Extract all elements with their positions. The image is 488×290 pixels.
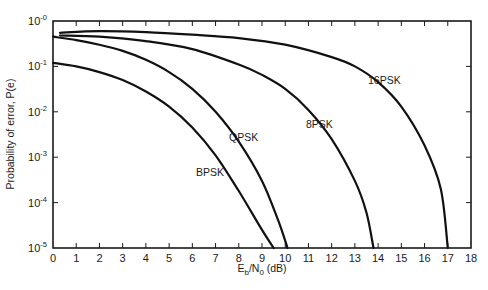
x-tick-label: 4: [143, 252, 149, 264]
y-tick-label: 10-4: [28, 195, 47, 209]
label-16psk: 16PSK: [368, 74, 401, 86]
ber-chart: 0123456789101112131415161718 10-010-110-…: [0, 0, 488, 290]
x-tick-label: 0: [50, 252, 56, 264]
curve-bpsk: [53, 63, 274, 248]
x-tick-label: 14: [372, 252, 384, 264]
x-tick-label: 11: [303, 252, 314, 264]
x-axis-title: Eb/N0 (dB): [237, 262, 286, 277]
plot-border: [53, 21, 471, 248]
label-qpsk: QPSK: [229, 131, 258, 143]
label-8psk: 8PSK: [306, 118, 333, 130]
plot-frame: [53, 21, 471, 248]
y-tick-label: 10-2: [28, 104, 47, 118]
x-tick-label: 18: [465, 252, 477, 264]
x-tick-label: 1: [73, 252, 79, 264]
y-tick-label: 10-3: [28, 149, 47, 163]
x-tick-label: 16: [418, 252, 430, 264]
label-bpsk: BPSK: [196, 166, 224, 178]
x-tick-label: 15: [395, 252, 407, 264]
y-tick-label: 10-1: [28, 58, 47, 72]
x-tick-label: 13: [349, 252, 361, 264]
x-tick-label: 2: [96, 252, 102, 264]
x-tick-label: 3: [120, 252, 126, 264]
x-tick-label: 17: [442, 252, 454, 264]
x-tick-label: 6: [189, 252, 195, 264]
x-tick-label: 12: [326, 252, 338, 264]
y-tick-label: 10-5: [28, 240, 47, 254]
x-axis-ticks: 0123456789101112131415161718: [50, 21, 477, 264]
curve-8psk: [60, 36, 374, 249]
x-tick-label: 7: [212, 252, 218, 264]
y-tick-label: 10-0: [28, 13, 47, 27]
y-axis-title: Probability of error, P(e): [4, 79, 16, 190]
x-tick-label: 5: [166, 252, 172, 264]
